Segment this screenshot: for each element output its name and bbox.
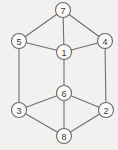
node-circle-4[interactable] <box>98 34 113 49</box>
graph-diagram-canvas: 12345678 <box>0 0 118 150</box>
graph-svg: 12345678 <box>0 0 118 150</box>
node-circle-3[interactable] <box>12 103 27 118</box>
graph-node-6[interactable]: 6 <box>57 86 72 101</box>
graph-node-2[interactable]: 2 <box>99 103 114 118</box>
graph-edge-7-4 <box>69 14 99 36</box>
graph-node-3[interactable]: 3 <box>12 103 27 118</box>
graph-edge-2-8 <box>70 114 99 132</box>
graph-node-7[interactable]: 7 <box>56 3 71 18</box>
graph-edge-7-1 <box>63 18 64 45</box>
graph-edge-5-1 <box>26 43 56 50</box>
graph-node-5[interactable]: 5 <box>12 34 27 49</box>
node-circle-7[interactable] <box>56 3 71 18</box>
graph-edge-6-2 <box>71 96 99 107</box>
node-circle-8[interactable] <box>57 129 72 144</box>
graph-node-1[interactable]: 1 <box>57 45 72 60</box>
graph-edge-6-3 <box>26 96 57 108</box>
graph-edge-3-8 <box>25 114 57 133</box>
graph-edge-4-2 <box>105 49 106 103</box>
node-circle-6[interactable] <box>57 86 72 101</box>
edge-layer <box>19 14 106 132</box>
graph-node-4[interactable]: 4 <box>98 34 113 49</box>
graph-edge-1-4 <box>71 43 98 50</box>
node-circle-2[interactable] <box>99 103 114 118</box>
graph-node-8[interactable]: 8 <box>57 129 72 144</box>
graph-edge-7-5 <box>25 14 57 36</box>
node-layer: 12345678 <box>12 3 114 144</box>
node-circle-1[interactable] <box>57 45 72 60</box>
node-circle-5[interactable] <box>12 34 27 49</box>
